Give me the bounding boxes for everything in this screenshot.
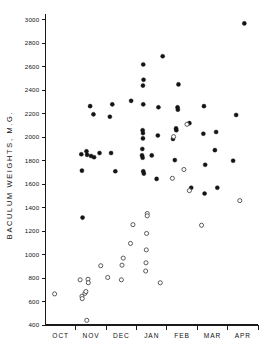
data-point-filled bbox=[141, 62, 145, 66]
data-point-filled bbox=[92, 155, 96, 159]
y-tick-label: 2800 bbox=[25, 39, 40, 46]
data-point-filled bbox=[215, 186, 219, 190]
data-point-filled bbox=[141, 102, 145, 106]
y-tick-label: 1000 bbox=[25, 251, 40, 258]
x-tick-label-nov: NOV bbox=[83, 332, 100, 339]
data-point-filled bbox=[203, 192, 207, 196]
data-point-open bbox=[119, 278, 123, 282]
data-point-open bbox=[120, 263, 124, 267]
data-point-filled bbox=[142, 172, 146, 176]
data-point-filled bbox=[79, 152, 83, 156]
data-point-filled bbox=[156, 133, 160, 137]
data-point-filled bbox=[155, 177, 159, 181]
y-tick-label: 400 bbox=[28, 321, 39, 328]
x-tick-label-apr: APR bbox=[235, 332, 251, 339]
y-axis-title-text: BACULUM WEIGHTS, M.G. bbox=[5, 111, 14, 240]
data-point-open bbox=[121, 256, 125, 260]
data-point-filled bbox=[129, 99, 133, 103]
data-point-filled bbox=[201, 132, 205, 136]
x-tick-group: OCTNOVDECJANFEBMARAPR bbox=[52, 325, 258, 339]
data-point-filled bbox=[80, 169, 84, 173]
data-point-filled bbox=[150, 153, 154, 157]
data-point-filled bbox=[97, 151, 101, 155]
data-point-filled bbox=[176, 108, 180, 112]
chart-canvas: BACULUM WEIGHTS, M.G. 400600800100012001… bbox=[0, 0, 266, 353]
data-point-open bbox=[53, 292, 57, 296]
data-point-filled bbox=[108, 115, 112, 119]
x-tick-label-mar: MAR bbox=[204, 332, 221, 339]
data-point-filled bbox=[141, 131, 145, 135]
data-point-filled bbox=[80, 216, 84, 220]
data-point-open bbox=[199, 223, 203, 227]
data-point-filled bbox=[109, 151, 113, 155]
data-point-filled bbox=[91, 112, 95, 116]
data-point-open bbox=[106, 275, 110, 279]
y-tick-label: 2000 bbox=[25, 133, 40, 140]
data-point-filled bbox=[113, 169, 117, 173]
data-point-filled bbox=[174, 128, 178, 132]
data-point-open bbox=[128, 241, 132, 245]
data-point-open bbox=[170, 176, 174, 180]
data-point-filled bbox=[202, 104, 206, 108]
data-point-open bbox=[78, 278, 82, 282]
data-point-filled bbox=[156, 105, 160, 109]
data-point-open bbox=[145, 214, 149, 218]
y-tick-label: 1600 bbox=[25, 180, 40, 187]
x-tick-label-feb: FEB bbox=[174, 332, 190, 339]
data-point-filled bbox=[231, 159, 235, 163]
y-tick-label: 3000 bbox=[25, 16, 40, 23]
y-axis-title: BACULUM WEIGHTS, M.G. bbox=[5, 111, 14, 240]
data-point-open bbox=[99, 264, 103, 268]
data-point-filled bbox=[85, 153, 89, 157]
data-point-open bbox=[144, 248, 148, 252]
data-point-filled bbox=[142, 78, 146, 82]
data-point-open bbox=[185, 122, 189, 126]
data-point-open bbox=[172, 135, 176, 139]
y-tick-label: 800 bbox=[28, 274, 39, 281]
data-point-filled bbox=[140, 147, 144, 151]
data-point-open bbox=[144, 269, 148, 273]
data-point-filled bbox=[242, 21, 246, 25]
x-tick-label-jan: JAN bbox=[144, 332, 159, 339]
y-tick-label: 2600 bbox=[25, 63, 40, 70]
data-point-filled bbox=[173, 158, 177, 162]
scatter-plot-figure: BACULUM WEIGHTS, M.G. 400600800100012001… bbox=[0, 0, 266, 353]
data-point-filled bbox=[88, 104, 92, 108]
data-points-layer bbox=[53, 21, 247, 322]
data-point-open bbox=[145, 231, 149, 235]
y-tick-group: 4006008001000120014001600180020002200240… bbox=[25, 16, 46, 328]
data-point-filled bbox=[141, 156, 145, 160]
data-point-open bbox=[187, 189, 191, 193]
data-point-filled bbox=[141, 84, 145, 88]
y-tick-label: 2400 bbox=[25, 86, 40, 93]
y-tick-label: 2200 bbox=[25, 110, 40, 117]
data-point-filled bbox=[176, 82, 180, 86]
data-point-open bbox=[86, 281, 90, 285]
data-point-filled bbox=[214, 130, 218, 134]
data-point-filled bbox=[141, 136, 145, 140]
data-point-open bbox=[131, 223, 135, 227]
data-point-open bbox=[182, 167, 186, 171]
data-point-open bbox=[80, 297, 84, 301]
data-point-open bbox=[84, 290, 88, 294]
x-tick-label-dec: DEC bbox=[113, 332, 130, 339]
data-point-open bbox=[238, 199, 242, 203]
data-point-filled bbox=[213, 148, 217, 152]
data-point-open bbox=[144, 261, 148, 265]
data-point-filled bbox=[203, 163, 207, 167]
data-point-open bbox=[85, 318, 89, 322]
y-tick-label: 600 bbox=[28, 298, 39, 305]
y-tick-label: 1800 bbox=[25, 157, 40, 164]
x-tick-label-oct: OCT bbox=[52, 332, 69, 339]
data-point-filled bbox=[161, 54, 165, 58]
y-tick-label: 1200 bbox=[25, 227, 40, 234]
data-point-open bbox=[158, 281, 162, 285]
data-point-filled bbox=[234, 113, 238, 117]
data-point-filled bbox=[110, 102, 114, 106]
y-tick-label: 1400 bbox=[25, 204, 40, 211]
